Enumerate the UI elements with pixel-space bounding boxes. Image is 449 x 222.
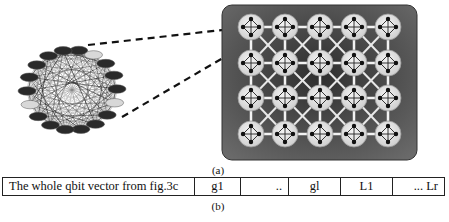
qubit-cell xyxy=(272,50,298,76)
qubit-cell xyxy=(272,121,298,147)
graph-node xyxy=(28,61,46,69)
qubit-cell xyxy=(341,85,367,111)
graph-node xyxy=(105,71,123,79)
graph-node xyxy=(108,85,126,93)
vector-cell: gl xyxy=(289,178,341,195)
graph-node xyxy=(29,112,47,120)
graph-node xyxy=(54,47,72,55)
qbit-vector-table: The whole qbit vector from fig.3cg1..glL… xyxy=(2,177,445,196)
qubit-cell xyxy=(238,50,264,76)
graph-node xyxy=(86,120,104,128)
complete-graph xyxy=(18,46,126,134)
qubit-cell xyxy=(341,121,367,147)
qubit-cell xyxy=(307,50,333,76)
qubit-cell xyxy=(238,14,264,40)
graph-node xyxy=(21,100,39,108)
vector-cell: .. xyxy=(241,178,289,195)
graph-node xyxy=(40,52,58,60)
qubit-cell xyxy=(375,121,401,147)
qubit-cell xyxy=(307,121,333,147)
graph-node xyxy=(41,121,59,129)
qubit-cell xyxy=(238,85,264,111)
qubit-cell xyxy=(307,85,333,111)
figure-a xyxy=(0,0,449,170)
vector-cell: The whole qbit vector from fig.3c xyxy=(3,178,195,195)
graph-node xyxy=(72,125,90,133)
qubit-cell xyxy=(375,50,401,76)
caption-a: (a) xyxy=(203,164,233,176)
vector-cell: ... Lr xyxy=(393,178,444,195)
qubit-cell xyxy=(341,50,367,76)
qubit-cell xyxy=(238,121,264,147)
graph-node xyxy=(98,111,116,119)
graph-node xyxy=(20,73,38,81)
qubit-cell xyxy=(307,14,333,40)
qubit-cell xyxy=(272,14,298,40)
vector-cell: g1 xyxy=(195,178,241,195)
qubit-cell xyxy=(375,85,401,111)
vector-cell: L1 xyxy=(341,178,393,195)
qubit-cell xyxy=(341,14,367,40)
graph-node xyxy=(85,51,103,59)
caption-b: (b) xyxy=(203,200,233,212)
graph-node xyxy=(18,87,36,95)
qubit-cell xyxy=(375,14,401,40)
graph-node xyxy=(97,59,115,67)
qubit-cell xyxy=(272,85,298,111)
graph-node xyxy=(106,99,124,107)
